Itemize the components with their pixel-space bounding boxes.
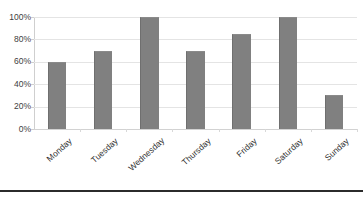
x-axis-tick-label: Tuesday	[81, 136, 120, 173]
y-axis-tick-label: 100%	[1, 13, 31, 22]
y-axis-tick-label: 0%	[1, 125, 31, 134]
axis-baseline	[34, 129, 357, 130]
x-axis-tick-label: Sunday	[311, 136, 350, 173]
gridline	[34, 39, 357, 40]
x-axis-tick-mark	[126, 129, 127, 132]
y-axis-tick-mark	[31, 39, 34, 40]
x-axis-tick-label: Saturday	[265, 136, 304, 173]
bar	[232, 34, 250, 129]
y-axis-tick-label: 20%	[1, 102, 31, 111]
bar	[186, 51, 204, 129]
bar	[48, 62, 66, 129]
bottom-divider-rule	[0, 190, 363, 192]
bar-chart-figure: 0%20%40%60%80%100% MondayTuesdayWednesda…	[0, 0, 363, 198]
y-axis-tick-mark	[31, 129, 34, 130]
x-axis-tick-label: Wednesday	[127, 136, 166, 173]
x-axis-tick-mark	[357, 129, 358, 132]
bar	[279, 17, 297, 129]
plot-area	[34, 17, 357, 129]
x-axis-tick-mark	[172, 129, 173, 132]
y-axis-tick-label: 80%	[1, 35, 31, 44]
y-axis-tick-mark	[31, 17, 34, 18]
bar	[325, 95, 343, 129]
y-axis-labels: 0%20%40%60%80%100%	[0, 0, 31, 198]
gridline	[34, 17, 357, 18]
x-axis-tick-label: Friday	[219, 136, 258, 173]
y-axis-tick-mark	[31, 62, 34, 63]
x-axis-tick-mark	[265, 129, 266, 132]
y-axis-tick-label: 60%	[1, 57, 31, 66]
bar	[94, 51, 112, 129]
x-axis-tick-mark	[80, 129, 81, 132]
bar	[140, 17, 158, 129]
x-axis-tick-label: Thursday	[173, 136, 212, 173]
y-axis-tick-mark	[31, 107, 34, 108]
y-axis-tick-label: 40%	[1, 80, 31, 89]
x-axis-tick-label: Monday	[34, 136, 73, 173]
x-axis-tick-mark	[311, 129, 312, 132]
x-axis-tick-mark	[219, 129, 220, 132]
y-axis-tick-mark	[31, 84, 34, 85]
